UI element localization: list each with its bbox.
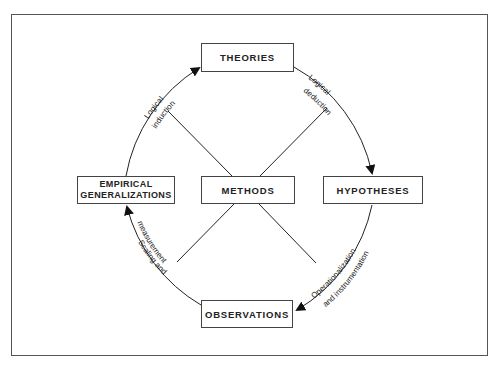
node-observations-label: OBSERVATIONS xyxy=(205,309,289,320)
node-theories-label: THEORIES xyxy=(220,52,275,63)
spoke-scaling xyxy=(177,204,234,262)
node-hypotheses: HYPOTHESES xyxy=(323,176,423,204)
node-hypotheses-label: HYPOTHESES xyxy=(337,185,410,196)
node-empirical-generalizations: EMPIRICAL GENERALIZATIONS xyxy=(77,176,175,204)
arc-deduction xyxy=(294,67,372,173)
node-empirical-label-1: EMPIRICAL xyxy=(99,179,152,190)
spoke-deduction xyxy=(260,108,327,176)
node-methods-label: METHODS xyxy=(221,185,274,196)
spoke-induction xyxy=(168,111,232,176)
node-empirical-label-2: GENERALIZATIONS xyxy=(80,190,171,201)
node-methods: METHODS xyxy=(201,176,295,204)
node-theories: THEORIES xyxy=(201,43,294,72)
spoke-operationalization xyxy=(259,204,316,263)
node-observations: OBSERVATIONS xyxy=(201,300,293,328)
